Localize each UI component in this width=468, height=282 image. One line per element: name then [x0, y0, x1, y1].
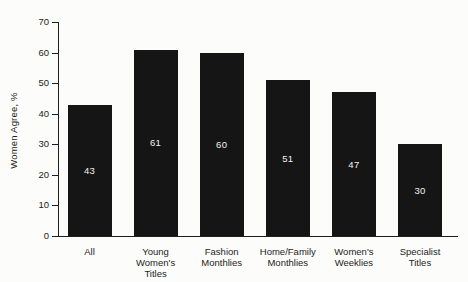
x-axis-label-young-women-s-titles: YoungWomen'sTitles [118, 246, 194, 279]
x-axis-label-home-family-monthlies: Home/FamilyMonthlies [250, 246, 326, 268]
y-tick-label: 70 [23, 17, 49, 27]
y-axis-line [58, 22, 59, 237]
y-tick-label: 50 [23, 78, 49, 88]
bar-women-s-weeklies: 47 [332, 92, 376, 236]
bar-value-label: 30 [414, 185, 425, 196]
x-axis-line [58, 236, 458, 237]
x-axis-label-line: Monthlies [184, 257, 260, 268]
bar-young-women-s-titles: 61 [134, 50, 178, 236]
x-axis-label-line: Titles [382, 257, 458, 268]
x-axis-label-line: Home/Family [250, 246, 326, 257]
y-tick-label: 10 [23, 200, 49, 210]
x-axis-label-all: All [52, 246, 128, 257]
y-tick-label: 30 [23, 139, 49, 149]
y-tick-mark [52, 53, 58, 54]
y-tick-mark [52, 175, 58, 176]
x-axis-label-line: All [52, 246, 128, 257]
y-tick-label: 20 [23, 170, 49, 180]
bar-value-label: 61 [150, 137, 161, 148]
bar-all: 43 [68, 105, 112, 236]
bar-value-label: 51 [282, 153, 293, 164]
x-axis-label-line: Women's [316, 246, 392, 257]
bar-value-label: 60 [216, 139, 227, 150]
y-tick-mark [52, 144, 58, 145]
x-axis-label-line: Young [118, 246, 194, 257]
x-axis-label-women-s-weeklies: Women'sWeeklies [316, 246, 392, 268]
bar-specialist-titles: 30 [398, 144, 442, 236]
x-axis-label-line: Specialist [382, 246, 458, 257]
x-axis-label-line: Fashion [184, 246, 260, 257]
y-tick-mark [52, 205, 58, 206]
bar-chart-figure: Women Agree, % 010203040506070 436160514… [0, 0, 468, 282]
x-axis-label-line: Women's [118, 257, 194, 268]
x-axis-label-line: Titles [118, 268, 194, 279]
bar-fashion-monthlies: 60 [200, 53, 244, 236]
x-axis-label-line: Monthlies [250, 257, 326, 268]
bar-value-label: 47 [348, 159, 359, 170]
y-tick-mark [52, 114, 58, 115]
y-tick-mark [52, 236, 58, 237]
bar-value-label: 43 [84, 165, 95, 176]
x-axis-label-specialist-titles: SpecialistTitles [382, 246, 458, 268]
y-tick-mark [52, 22, 58, 23]
y-tick-label: 40 [23, 109, 49, 119]
x-axis-label-fashion-monthlies: FashionMonthlies [184, 246, 260, 268]
y-tick-label: 0 [23, 231, 49, 241]
y-tick-label: 60 [23, 48, 49, 58]
y-tick-mark [52, 83, 58, 84]
x-axis-label-line: Weeklies [316, 257, 392, 268]
bar-home-family-monthlies: 51 [266, 80, 310, 236]
y-axis-title: Women Agree, % [8, 76, 19, 186]
